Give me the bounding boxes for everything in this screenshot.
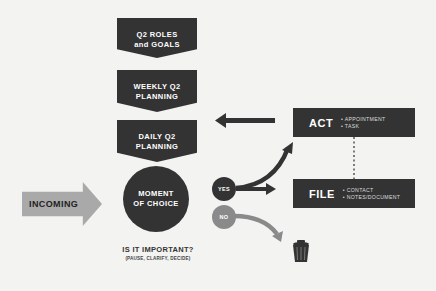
connector-layer: [0, 0, 436, 291]
yes-to-act-arrow: [236, 148, 288, 188]
file-title: FILE: [309, 188, 335, 200]
yes-badge: YES: [212, 177, 236, 201]
incoming-label: INCOMING: [29, 199, 78, 209]
question-subtitle: (PAUSE, CLARIFY, DECIDE): [108, 256, 208, 261]
act-item: • APPOINTMENT: [341, 116, 385, 123]
moment-label: OF CHOICE: [133, 199, 178, 209]
trash-can-icon: [293, 240, 309, 262]
file-items: • CONTACT • NOTES/DOCUMENT: [343, 187, 400, 200]
file-box: FILE • CONTACT • NOTES/DOCUMENT: [293, 179, 415, 208]
no-badge: NO: [212, 205, 236, 229]
act-box: ACT • APPOINTMENT • TASK: [293, 108, 415, 137]
arrow-left-to-daily: [215, 113, 275, 128]
step-label: WEEKLY Q2: [134, 82, 181, 92]
no-label: NO: [220, 214, 229, 220]
act-title: ACT: [309, 117, 333, 129]
moment-label: MOMENT: [138, 189, 174, 199]
question-title: IS IT IMPORTANT?: [115, 245, 201, 254]
yes-label: YES: [218, 186, 230, 192]
yes-to-file-arrow: [236, 187, 268, 191]
step-label: DAILY Q2: [139, 132, 176, 142]
step-label: PLANNING: [136, 92, 178, 102]
step-label: Q2 ROLES: [136, 30, 177, 40]
file-item: • NOTES/DOCUMENT: [343, 194, 400, 201]
moment-of-choice: MOMENT OF CHOICE: [123, 166, 189, 232]
step-label: PLANNING: [136, 142, 178, 152]
step-label: and GOALS: [134, 40, 180, 50]
no-to-trash-arrow: [234, 216, 277, 234]
act-item: • TASK: [341, 123, 385, 130]
act-items: • APPOINTMENT • TASK: [341, 116, 385, 129]
